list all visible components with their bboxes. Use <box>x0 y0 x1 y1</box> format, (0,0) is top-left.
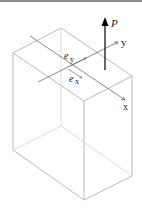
load-arrow <box>102 17 109 70</box>
bottom-left-edge <box>13 150 84 200</box>
load-label: P <box>110 17 118 29</box>
svg-text:y: y <box>70 55 74 64</box>
axes <box>30 36 125 100</box>
hidden-bottom-right <box>61 126 132 176</box>
block-diagram: P y x e y e x <box>0 0 142 211</box>
svg-text:e: e <box>69 73 74 84</box>
load-arrowhead <box>102 17 109 26</box>
block-edges <box>13 28 132 200</box>
svg-text:x: x <box>75 77 79 86</box>
svg-text:e: e <box>64 50 69 61</box>
hidden-bottom-left <box>13 126 61 150</box>
bottom-right-edge <box>84 176 132 200</box>
y-axis-label: y <box>121 36 127 48</box>
x-axis-label: x <box>123 101 128 112</box>
